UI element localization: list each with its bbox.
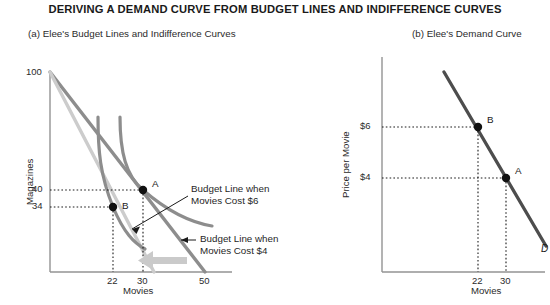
panel-b-y-axis-label: Price per Movie xyxy=(340,131,351,198)
figure-container: DERIVING A DEMAND CURVE FROM BUDGET LINE… xyxy=(0,0,550,305)
panel-b-point-label-b: B xyxy=(487,114,494,125)
demand-curve xyxy=(444,72,546,246)
panel-b-xtick-30: 30 xyxy=(500,275,511,286)
panel-b-xtick-22: 22 xyxy=(472,275,483,286)
panel-b-point-label-a: A xyxy=(515,165,522,176)
panel-b-ytick-4: $4 xyxy=(360,171,371,182)
panel-b-point-a-marker xyxy=(502,174,510,182)
demand-curve-label: D xyxy=(541,243,548,254)
panel-b-plot xyxy=(0,0,550,305)
panel-b-x-axis-label: Movies xyxy=(471,285,501,296)
panel-b-point-b-marker xyxy=(474,123,482,131)
panel-b-ytick-6: $6 xyxy=(360,120,371,131)
